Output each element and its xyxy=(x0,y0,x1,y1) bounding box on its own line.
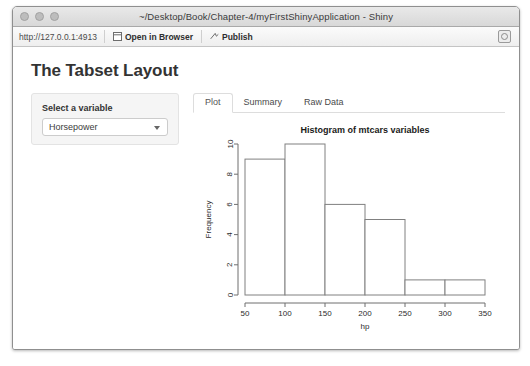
histogram-bar xyxy=(365,220,405,296)
chevron-down-icon xyxy=(154,126,160,130)
histogram-bar xyxy=(445,280,485,295)
x-axis-tick-label: 350 xyxy=(478,309,492,318)
x-axis-tick-label: 200 xyxy=(358,309,372,318)
variable-select[interactable]: Horsepower xyxy=(42,118,168,136)
main-panel: Plot Summary Raw Data Histogram of mtcar… xyxy=(193,93,505,337)
page-title: The Tabset Layout xyxy=(31,61,519,81)
histogram-bar xyxy=(285,144,325,295)
refresh-icon[interactable] xyxy=(498,30,511,43)
tab-raw-data-label: Raw Data xyxy=(304,97,344,107)
variable-select-value: Horsepower xyxy=(49,122,98,132)
browser-window-icon xyxy=(113,32,122,41)
window-titlebar: ~/Desktop/Book/Chapter-4/myFirstShinyApp… xyxy=(13,7,519,27)
app-toolbar: http://127.0.0.1:4913 Open in Browser xyxy=(13,27,519,47)
x-axis-tick-label: 150 xyxy=(318,309,332,318)
select-variable-label: Select a variable xyxy=(42,103,168,113)
histogram-bar xyxy=(245,159,285,295)
tab-summary-label: Summary xyxy=(244,97,283,107)
screenshot-root: ~/Desktop/Book/Chapter-4/myFirstShinyApp… xyxy=(0,0,530,366)
tab-plot-label: Plot xyxy=(205,97,221,107)
x-axis-label: hp xyxy=(361,322,370,331)
open-in-browser-button[interactable]: Open in Browser xyxy=(105,32,201,42)
y-axis-tick-label: 8 xyxy=(226,171,235,176)
y-axis-label: Frequency xyxy=(204,201,213,239)
x-axis-tick-label: 50 xyxy=(241,309,250,318)
app-content: The Tabset Layout Select a variable Hors… xyxy=(13,47,519,349)
tab-plot[interactable]: Plot xyxy=(193,93,233,113)
histogram-svg: Histogram of mtcars variables0246810Freq… xyxy=(193,122,493,337)
chart-title: Histogram of mtcars variables xyxy=(300,125,429,135)
tab-summary[interactable]: Summary xyxy=(233,94,294,112)
y-axis-tick-label: 10 xyxy=(226,139,235,148)
y-axis-tick-label: 0 xyxy=(226,292,235,297)
open-in-browser-label: Open in Browser xyxy=(125,32,193,42)
publish-label: Publish xyxy=(222,32,253,42)
close-button[interactable] xyxy=(20,12,29,21)
minimize-button[interactable] xyxy=(35,12,44,21)
address-label: http://127.0.0.1:4913 xyxy=(19,32,104,42)
histogram-bar xyxy=(325,204,365,295)
x-axis-tick-label: 300 xyxy=(438,309,452,318)
tab-raw-data[interactable]: Raw Data xyxy=(293,94,355,112)
tabset-nav: Plot Summary Raw Data xyxy=(193,93,505,113)
y-axis-tick-label: 6 xyxy=(226,202,235,207)
histogram-bar xyxy=(405,280,445,295)
window-title: ~/Desktop/Book/Chapter-4/myFirstShinyApp… xyxy=(13,11,519,22)
publish-icon xyxy=(210,32,219,41)
y-axis-tick-label: 4 xyxy=(226,232,235,237)
app-layout: Select a variable Horsepower Plot Summar… xyxy=(13,93,519,337)
x-axis-tick-label: 250 xyxy=(398,309,412,318)
window-controls xyxy=(20,12,59,21)
sidebar-panel: Select a variable Horsepower xyxy=(31,93,179,145)
zoom-button[interactable] xyxy=(50,12,59,21)
y-axis-tick-label: 2 xyxy=(226,262,235,267)
publish-button[interactable]: Publish xyxy=(202,32,261,42)
shiny-app-window: ~/Desktop/Book/Chapter-4/myFirstShinyApp… xyxy=(12,6,520,350)
x-axis-tick-label: 100 xyxy=(278,309,292,318)
histogram-plot: Histogram of mtcars variables0246810Freq… xyxy=(193,122,505,337)
